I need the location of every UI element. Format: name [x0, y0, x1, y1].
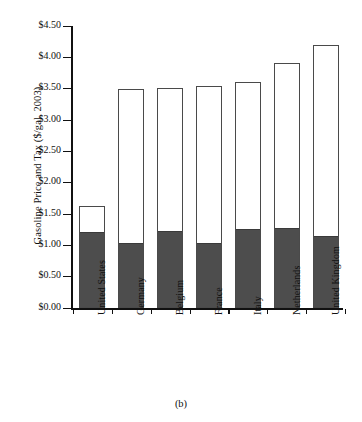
y-axis-line — [71, 26, 73, 309]
x-tick-mark — [267, 309, 268, 314]
plot-area: $0.00$0.50$1.00$1.50$2.00$2.50$3.00$3.50… — [71, 26, 343, 309]
x-tick-mark — [73, 309, 74, 314]
y-tick-mark — [63, 151, 71, 152]
y-tick-label: $2.50 — [39, 144, 62, 155]
y-tick-mark — [63, 245, 71, 246]
y-tick-mark — [63, 308, 71, 309]
y-tick-mark — [63, 26, 71, 27]
y-tick-mark — [63, 214, 71, 215]
y-tick-label: $2.00 — [39, 175, 62, 186]
x-tick-mark — [345, 309, 346, 314]
y-tick-label: $1.00 — [39, 238, 62, 249]
x-tick-mark — [112, 309, 113, 314]
x-tick-label: Netherlands — [291, 266, 302, 315]
x-tick-label: Belgium — [174, 280, 185, 315]
y-tick-label: $3.50 — [39, 81, 62, 92]
figure-caption: (b) — [0, 398, 362, 409]
x-tick-label: France — [213, 287, 224, 315]
y-tick-label: $1.50 — [39, 207, 62, 218]
x-tick-mark — [228, 309, 229, 314]
x-tick-mark — [151, 309, 152, 314]
x-tick-label: United Kingdom — [330, 246, 341, 315]
y-tick-mark — [63, 276, 71, 277]
x-tick-label: Germany — [135, 277, 146, 315]
x-tick-mark — [306, 309, 307, 314]
y-tick-label: $0.00 — [39, 301, 62, 312]
y-tick-label: $3.00 — [39, 113, 62, 124]
y-tick-label: $0.50 — [39, 269, 62, 280]
y-tick-label: $4.00 — [39, 50, 62, 61]
bar-italy — [235, 82, 261, 308]
figure-panel-b: Gasoline Price and Tax ($/gal, 2003) $0.… — [0, 0, 362, 422]
x-tick-mark — [190, 309, 191, 314]
x-tick-label: United States — [96, 260, 107, 315]
y-tick-mark — [63, 88, 71, 89]
y-tick-mark — [63, 182, 71, 183]
bar-germany — [118, 89, 144, 308]
bar-belgium — [157, 88, 183, 308]
y-tick-mark — [63, 120, 71, 121]
bar-france — [196, 86, 222, 308]
y-tick-mark — [63, 57, 71, 58]
y-tick-label: $4.50 — [39, 19, 62, 30]
x-tick-label: Italy — [252, 296, 263, 315]
